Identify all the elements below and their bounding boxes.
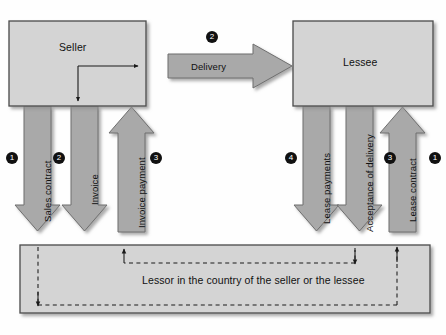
box-lessee-label: Lessee bbox=[343, 56, 377, 68]
diagram-canvas: Seller Lessee Lessor in the country of t… bbox=[0, 0, 446, 335]
flow-label-delivery: Delivery bbox=[191, 61, 226, 72]
flow-label-lease-payments: Lease payments bbox=[321, 153, 332, 224]
marker-lease-payments: 4 bbox=[285, 152, 297, 164]
flow-label-sales-contract: Sales contract bbox=[42, 160, 53, 222]
marker-acceptance-of-delivery: 3 bbox=[384, 152, 396, 164]
flow-arrow-lease-contract bbox=[380, 107, 425, 232]
flow-label-invoice-payment: Invoice payment bbox=[136, 157, 147, 228]
marker-lease-contract: 1 bbox=[429, 152, 441, 164]
box-lessor-label: Lessor in the country of the seller or t… bbox=[142, 274, 365, 286]
flow-label-acceptance-of-delivery: Acceptance of delivery bbox=[364, 134, 375, 232]
flow-label-lease-contract: Lease contract bbox=[407, 158, 418, 222]
marker-delivery: 2 bbox=[206, 31, 218, 43]
flow-label-invoice: Invoice bbox=[89, 174, 100, 205]
box-seller-label: Seller bbox=[59, 41, 86, 53]
flow-arrow-invoice-payment bbox=[109, 107, 154, 232]
flow-arrow-lease-payments bbox=[294, 106, 339, 231]
marker-sales-contract: 1 bbox=[6, 152, 18, 164]
flow-arrow-acceptance-of-delivery bbox=[337, 106, 382, 231]
marker-invoice: 2 bbox=[53, 152, 65, 164]
flow-arrow-delivery bbox=[168, 44, 292, 88]
marker-invoice-payment: 3 bbox=[150, 152, 162, 164]
flow-arrow-invoice bbox=[62, 106, 107, 231]
flow-arrow-sales-contract bbox=[15, 106, 60, 231]
